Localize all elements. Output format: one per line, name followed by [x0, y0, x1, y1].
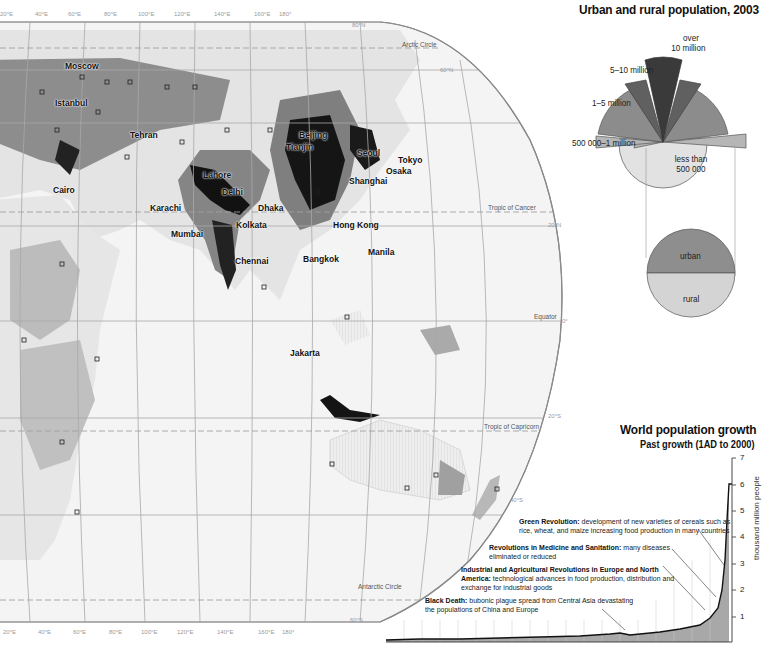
lon-label: 100°E [141, 629, 157, 635]
y-tick: 3 [740, 559, 744, 568]
lon-label: 140°E [217, 629, 233, 635]
antarctic-circle-label: Antarctic Circle [358, 583, 402, 590]
growth-title: World population growth [620, 422, 756, 437]
city-hong-kong: Hong Kong [333, 220, 379, 230]
city-manila: Manila [368, 247, 394, 257]
lon-label: 60°E [73, 629, 86, 635]
city-tokyo: Tokyo [398, 155, 422, 165]
y-tick: 5 [740, 506, 744, 515]
lon-label: 20°E [3, 629, 16, 635]
city-istanbul: Istanbul [55, 98, 88, 108]
lon-label: 180° [279, 11, 291, 17]
city-beijing: Beijing [299, 130, 327, 140]
note-heading: Black Death: [425, 596, 467, 605]
lat-label-60s: 60°S [350, 617, 363, 623]
lat-label-80n: 80°N [352, 22, 365, 28]
segment-label-line: over [673, 33, 709, 43]
lon-label: 80°E [109, 629, 122, 635]
lon-label: 60°E [68, 11, 81, 17]
lon-label: 160°E [254, 11, 270, 17]
lon-label: 120°E [174, 11, 190, 17]
lat-label-0: 0° [562, 318, 568, 324]
city-mumbai: Mumbai [171, 229, 203, 239]
y-axis-title: thousand million people [752, 476, 761, 560]
y-tick: 4 [740, 532, 744, 541]
lat-label-40s: 40°S [510, 497, 523, 503]
segment-label-1-5m: 1–5 million [592, 98, 631, 108]
segment-label-line: 500 000 [673, 164, 709, 174]
city-kolkata: Kolkata [236, 220, 267, 230]
note-industrial-revolution: Industrial and Agricultural Revolutions … [461, 565, 682, 592]
city-shanghai: Shanghai [349, 176, 387, 186]
lon-label: 40°E [38, 629, 51, 635]
growth-subtitle: Past growth (1AD to 2000) [640, 438, 754, 450]
segment-label-line: 10 million [668, 43, 709, 53]
lat-label-20n: 20°N [548, 222, 561, 228]
equator-label: Equator [534, 313, 557, 320]
urban-rural-title: Urban and rural population, 2003 [579, 2, 759, 17]
tropic-of-cancer-label: Tropic of Cancer [488, 204, 536, 211]
lon-label: 100°E [138, 11, 154, 17]
lat-label-60n: 60°N [440, 67, 453, 73]
urban-rural-diagram [596, 57, 746, 317]
rural-label: rural [683, 294, 699, 304]
city-osaka: Osaka [386, 166, 412, 176]
city-bangkok: Bangkok [303, 254, 339, 264]
note-green-revolution: Green Revolution: development of new var… [519, 517, 731, 535]
segment-label-over-10m: over 10 million [673, 33, 709, 53]
city-chennai: Chennai [235, 256, 269, 266]
city-tehran: Tehran [130, 130, 158, 140]
y-tick: 7 [740, 453, 744, 462]
lon-label: 140°E [214, 11, 230, 17]
note-medicine-sanitation: Revolutions in Medicine and Sanitation: … [489, 543, 701, 561]
arctic-circle-label: Arctic Circle [402, 41, 437, 48]
segment-label-500k-1m: 500 000–1 million [572, 138, 636, 148]
y-tick: 6 [740, 480, 744, 489]
lon-label: 20°E [0, 11, 13, 17]
lon-label: 160°E [258, 629, 274, 635]
lon-label: 180° [282, 629, 294, 635]
city-delhi: Delhi [222, 187, 243, 197]
note-text: technological advances in food productio… [461, 574, 674, 592]
segment-label-5-10m: 5–10 million [610, 65, 653, 75]
city-seoul: Seoul [357, 148, 380, 158]
note-heading: Green Revolution: [519, 517, 580, 526]
lon-label: 40°E [35, 11, 48, 17]
segment-label-less-500k: less than 500 000 [673, 154, 709, 174]
tropic-of-capricorn-label: Tropic of Capricorn [484, 423, 539, 430]
city-dhaka: Dhaka [258, 203, 284, 213]
y-tick: 1 [740, 612, 744, 621]
city-cairo: Cairo [53, 185, 75, 195]
y-tick: 2 [740, 585, 744, 594]
urban-label: urban [680, 251, 701, 261]
lat-label-20s: 20°S [548, 413, 561, 419]
lon-label: 80°E [104, 11, 117, 17]
city-tianjin: Tianjin [286, 142, 313, 152]
note-black-death: Black Death: bubonic plague spread from … [425, 596, 637, 614]
city-moscow: Moscow [65, 61, 99, 71]
note-heading: Revolutions in Medicine and Sanitation: [489, 543, 621, 552]
lon-label: 120°E [177, 629, 193, 635]
city-karachi: Karachi [150, 203, 181, 213]
segment-label-line: less than [673, 154, 709, 164]
city-lahore: Lahore [203, 170, 231, 180]
city-jakarta: Jakarta [290, 348, 320, 358]
